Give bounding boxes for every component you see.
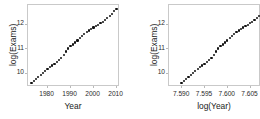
scatter-points-right (169, 5, 259, 85)
data-point (81, 35, 83, 37)
x-tick-label: 7.600 (218, 91, 235, 98)
y-tick-mark (166, 24, 168, 25)
data-point (109, 15, 111, 17)
data-point (44, 70, 46, 72)
data-point (256, 17, 258, 19)
data-point (183, 80, 185, 82)
data-point (208, 59, 210, 61)
data-point (69, 45, 71, 47)
data-point (258, 15, 260, 17)
x-tick-label: 7.590 (173, 91, 190, 98)
scatter-points-left (28, 5, 118, 85)
plot-frame-left (27, 4, 119, 86)
data-point (192, 72, 194, 74)
x-tick-mark (227, 86, 228, 88)
data-point (224, 41, 226, 43)
data-point (104, 19, 106, 21)
data-point (46, 68, 48, 70)
data-point (187, 76, 189, 78)
y-tick-label: 10 (13, 69, 24, 76)
data-point (194, 70, 196, 72)
chart-panel-logyear: 7.5907.5957.6007.605 101112 log(Year) lo… (130, 0, 260, 119)
data-point (253, 19, 255, 21)
data-point (65, 50, 67, 52)
x-tick-mark (181, 86, 182, 88)
data-point (97, 24, 99, 26)
x-axis-title-right: log(Year) (197, 102, 231, 110)
data-point (67, 47, 69, 49)
data-point (115, 8, 117, 10)
y-axis-title-right: log(Exams) (150, 24, 158, 66)
data-point (229, 37, 231, 39)
data-point (35, 78, 37, 80)
data-point (231, 35, 233, 37)
data-point (226, 39, 228, 41)
data-point (56, 61, 58, 63)
data-point (37, 76, 39, 78)
y-tick-mark (25, 73, 27, 74)
y-tick-mark (166, 48, 168, 49)
y-tick-mark (166, 73, 168, 74)
x-axis-title-left: Year (65, 102, 82, 110)
data-point (219, 45, 221, 47)
x-tick-label: 2010 (108, 91, 123, 98)
x-tick-label: 1980 (39, 91, 54, 98)
y-tick-mark (25, 24, 27, 25)
data-point (213, 54, 215, 56)
data-point (74, 41, 76, 43)
y-axis-title-left: log(Exams) (9, 24, 17, 66)
data-point (53, 63, 55, 65)
data-point (33, 80, 35, 82)
y-tick-label: 10 (154, 69, 165, 76)
data-point (233, 33, 235, 35)
x-tick-label: 2000 (85, 91, 100, 98)
data-point (215, 50, 217, 52)
data-point (58, 59, 60, 61)
plot-frame-right (168, 4, 260, 86)
data-point (76, 39, 78, 41)
data-point (206, 61, 208, 63)
x-tick-mark (93, 86, 94, 88)
data-point (83, 33, 85, 35)
x-tick-mark (70, 86, 71, 88)
y-tick-mark (25, 48, 27, 49)
x-tick-label: 7.605 (241, 91, 258, 98)
data-point (30, 82, 32, 84)
data-point (92, 26, 94, 28)
data-point (190, 74, 192, 76)
data-point (42, 72, 44, 74)
x-tick-label: 7.595 (196, 91, 213, 98)
data-point (217, 47, 219, 49)
data-point (79, 37, 81, 39)
figure-scatter-pair: 1980199020002010 101112 Year log(Exams) … (0, 0, 260, 119)
data-point (106, 17, 108, 19)
x-tick-mark (204, 86, 205, 88)
data-point (60, 57, 62, 59)
data-point (210, 57, 212, 59)
chart-panel-year: 1980199020002010 101112 Year log(Exams) (0, 0, 130, 119)
data-point (111, 13, 113, 15)
x-tick-mark (116, 86, 117, 88)
data-point (63, 54, 65, 56)
data-point (40, 74, 42, 76)
data-point (203, 63, 205, 65)
x-tick-mark (47, 86, 48, 88)
x-tick-label: 1990 (62, 91, 77, 98)
x-tick-mark (250, 86, 251, 88)
data-point (180, 82, 182, 84)
data-point (197, 68, 199, 70)
data-point (185, 78, 187, 80)
data-point (72, 43, 74, 45)
data-point (222, 43, 224, 45)
data-point (113, 10, 115, 12)
data-point (247, 24, 249, 26)
